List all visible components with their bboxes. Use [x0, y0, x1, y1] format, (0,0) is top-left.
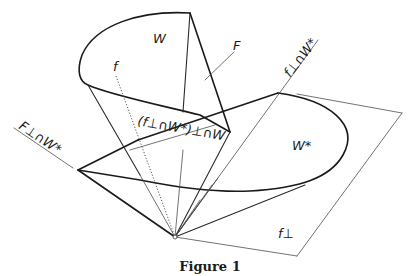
label-f-perp: f⊥: [278, 226, 294, 241]
label-f: f: [113, 59, 120, 74]
label-W-star: W*: [292, 138, 312, 153]
label-W: W: [153, 31, 167, 46]
label-f-perp-cap-W-star: f⊥∩W*: [281, 35, 321, 80]
label-F: F: [233, 38, 241, 53]
label-F-perp-cap-W-star: F⊥∩W*: [16, 118, 64, 157]
apex-point: [173, 235, 177, 239]
label-intersection: (f⊥∩W*)⊥∩W: [136, 113, 227, 143]
figure-caption: Figure 1: [179, 259, 240, 274]
figure-diagram: W F f W* f⊥ f⊥∩W* F⊥∩W* (f⊥∩W*)⊥∩W Figur…: [0, 0, 408, 276]
